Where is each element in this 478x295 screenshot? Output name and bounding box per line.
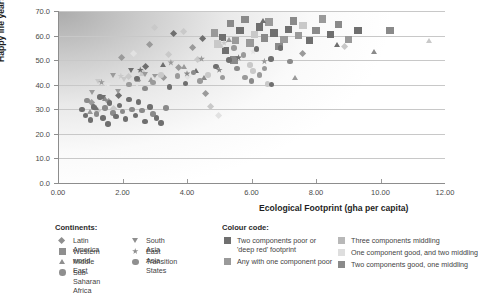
data-point: [426, 38, 432, 43]
data-point: [142, 119, 148, 125]
data-point: [147, 104, 153, 110]
data-point: [371, 49, 377, 54]
data-point: [129, 107, 135, 113]
data-point: [246, 39, 254, 47]
y-tick-label: 50.0: [20, 56, 50, 65]
data-point: [295, 32, 303, 40]
data-point: [79, 107, 85, 113]
data-point: [128, 68, 134, 73]
data-point: [102, 105, 108, 111]
data-point: [270, 29, 278, 37]
data-point: [249, 78, 255, 84]
data-point: [139, 108, 145, 114]
data-point: [197, 78, 203, 84]
data-point: [292, 75, 298, 80]
data-point: [319, 15, 327, 23]
x-tick-label: 10.00: [364, 188, 398, 197]
data-point: [241, 16, 249, 24]
data-point: [150, 80, 156, 86]
data-point: [261, 34, 269, 42]
data-point: [226, 37, 232, 42]
colour-legend-label: Two components good, one middling: [351, 260, 468, 269]
data-point: [287, 59, 293, 65]
y-tick-label: 30.0: [20, 105, 50, 114]
data-point: [335, 21, 343, 29]
data-point: [241, 52, 247, 58]
data-point: [327, 31, 335, 39]
data-point: [278, 45, 284, 51]
data-point: [232, 37, 240, 45]
colour-legend-label: Three components middling: [351, 236, 440, 245]
y-tick-label: 40.0: [20, 81, 50, 90]
data-point: [299, 22, 307, 30]
colour-swatch: [338, 249, 345, 256]
colour-swatch: [338, 237, 345, 244]
triangle-down-marker-icon: [132, 238, 138, 243]
data-point: [256, 23, 264, 31]
diamond-marker-icon: [58, 236, 65, 243]
data-point: [134, 82, 140, 87]
legend-item-label: Sub-Saharan Africa: [73, 268, 100, 295]
data-point: [100, 115, 106, 121]
data-point: [227, 20, 235, 28]
gridline: [58, 85, 445, 86]
x-tick-label: 2.00: [106, 188, 140, 197]
data-point: [105, 121, 111, 127]
data-point: [142, 86, 148, 92]
data-point: [181, 64, 187, 69]
data-point: [88, 117, 94, 123]
y-axis-title: Happy life years: [0, 0, 6, 62]
data-point: [242, 75, 248, 81]
data-point: [126, 97, 132, 103]
y-tick-label: 70.0: [20, 7, 50, 16]
continents-legend-heading: Continents:: [55, 223, 97, 232]
colour-legend-heading: Colour code:: [222, 223, 269, 232]
data-point: [290, 17, 298, 25]
data-point: [247, 62, 253, 68]
data-point: [345, 36, 353, 44]
colour-swatch: [338, 261, 345, 268]
x-tick-label: 12.00: [428, 188, 462, 197]
data-point: [213, 64, 219, 70]
data-point: [160, 62, 166, 67]
data-point: [136, 99, 142, 105]
data-point: [306, 37, 314, 45]
data-point: [134, 76, 140, 82]
data-point: [236, 27, 244, 35]
triangle-marker-icon: [59, 259, 65, 264]
legend-item-label: Transition States: [146, 257, 177, 275]
data-point: [354, 27, 362, 35]
plot-area: [58, 11, 445, 183]
data-point: [142, 72, 148, 77]
x-tick-label: 6.00: [235, 188, 269, 197]
data-point: [89, 90, 95, 95]
colour-legend-label: Two components poor or 'deep red' footpr…: [237, 236, 316, 254]
data-point: [257, 72, 263, 78]
plot-wrapper: Happy life years Ecological Footprint (g…: [0, 0, 471, 215]
data-point: [163, 105, 169, 111]
data-point: [91, 104, 97, 110]
data-point: [211, 29, 219, 37]
data-point: [175, 73, 181, 79]
legend: Continents: Colour code: Latin AmericaWe…: [0, 215, 471, 289]
star-marker-icon: [132, 248, 139, 255]
data-point: [167, 84, 173, 90]
data-point: [158, 120, 164, 126]
data-point: [260, 18, 266, 23]
y-tick-label: 10.0: [20, 154, 50, 163]
gridline: [58, 158, 445, 159]
x-axis-title: Ecological Footprint (gha per capita): [259, 203, 408, 213]
data-point: [205, 72, 211, 78]
colour-swatch: [224, 237, 231, 244]
x-tick-label: 8.00: [299, 188, 333, 197]
data-point: [105, 83, 111, 88]
data-point: [386, 27, 394, 35]
y-axis-line: [58, 11, 59, 183]
x-axis-line: [58, 183, 445, 184]
circle-marker-icon: [59, 269, 66, 276]
data-point: [226, 57, 232, 63]
data-point: [231, 45, 237, 51]
data-point: [87, 109, 93, 114]
data-point: [265, 18, 273, 26]
